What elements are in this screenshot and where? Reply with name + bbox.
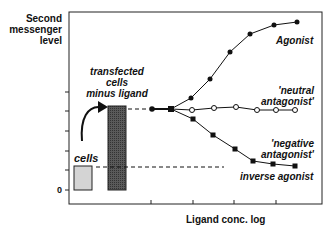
- y-ticks: [65, 92, 69, 190]
- inverse-agonist-label: inverse agonist: [240, 171, 313, 182]
- negative-line-1: 'negative: [260, 138, 314, 149]
- transfected-line-1: transfected: [82, 66, 152, 77]
- transfected-label: transfected cells minus ligand: [82, 66, 152, 99]
- agonist-label: Agonist: [276, 35, 313, 46]
- neutral-line-1: 'neutral: [260, 85, 314, 96]
- y-label-line-2: messenger: [4, 24, 62, 35]
- y-label-line-1: Second: [4, 13, 62, 24]
- curved-arrow-icon: [82, 107, 100, 141]
- cells-bar: [74, 166, 92, 190]
- origin-point: [168, 106, 174, 112]
- neutral-line-2: antagonist': [260, 96, 314, 107]
- transfected-line-2: cells: [82, 77, 152, 88]
- y-zero-label: 0: [57, 185, 62, 196]
- y-label-line-3: level: [4, 35, 62, 46]
- neutral-antagonist-label: 'neutral antagonist': [260, 85, 314, 107]
- arrowhead-icon: [98, 101, 108, 113]
- negative-antagonist-label: 'negative antagonist': [260, 138, 314, 160]
- x-ticks: [151, 200, 276, 204]
- cells-label: cells: [74, 153, 98, 164]
- transfected-bar: [108, 106, 126, 190]
- x-axis-label: Ligand conc. log: [186, 214, 265, 225]
- negative-line-2: antagonist': [260, 149, 314, 160]
- y-axis-label: Second messenger level: [4, 13, 62, 46]
- transfected-line-3: minus ligand: [82, 88, 152, 99]
